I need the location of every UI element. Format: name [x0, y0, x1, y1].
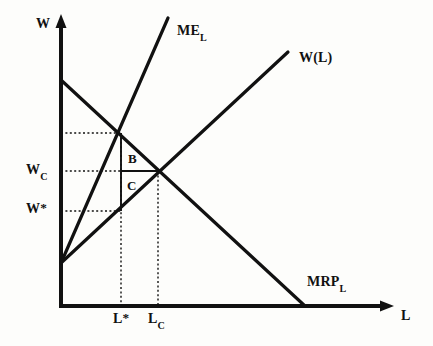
mrp-l-label-text: MRP [307, 274, 339, 289]
chart-canvas [0, 0, 433, 346]
curves-group [61, 18, 305, 306]
wage-competitive-label: WC [26, 163, 48, 180]
mrp-l-label-subscript: L [339, 283, 346, 294]
wage-monopsony-label: W* [26, 202, 47, 216]
wage-competitive-subscript: C [40, 171, 47, 182]
x-axis-label: L [401, 309, 411, 323]
mrp-l-curve-label: MRPL [307, 275, 346, 292]
economics-diagram: W L MEL W(L) MRPL WC W* L* LC B C [0, 0, 433, 346]
labor-competitive-label: LC [148, 312, 165, 329]
wage-monopsony-star: * [40, 200, 47, 215]
supply-wl-curve [61, 52, 288, 263]
labor-monopsony-text: L [113, 311, 123, 326]
region-label-b: B [128, 152, 137, 165]
y-axis-arrowhead [56, 14, 67, 28]
me-l-curve [61, 18, 168, 263]
wage-competitive-text: W [26, 162, 40, 177]
y-axis-label: W [36, 17, 50, 31]
x-axis-arrowhead [380, 301, 394, 312]
labor-monopsony-star: * [123, 310, 130, 325]
labor-competitive-subscript: C [158, 320, 165, 331]
region-label-c: C [127, 179, 137, 192]
me-l-curve-label: MEL [177, 24, 207, 41]
mrp-l-curve [61, 80, 305, 306]
region-edges-group [121, 133, 158, 211]
supply-curve-label: W(L) [299, 51, 332, 65]
me-l-label-text: ME [177, 23, 200, 38]
me-l-label-subscript: L [200, 32, 207, 43]
labor-monopsony-label: L* [113, 312, 129, 326]
wage-monopsony-text: W [26, 201, 40, 216]
labor-competitive-text: L [148, 311, 158, 326]
